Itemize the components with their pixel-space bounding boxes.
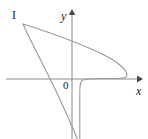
curve-loop-branch (23, 24, 127, 139)
y-axis-label: y (61, 10, 66, 22)
curve-label-I: I (12, 9, 16, 21)
curve-straight-branch (23, 24, 77, 139)
y-axis (69, 9, 76, 139)
curve-diagram: I y x 0 (0, 0, 148, 139)
y-axis-arrow-icon (69, 9, 76, 15)
curve-diagram-canvas (0, 0, 148, 139)
origin-label: 0 (63, 80, 69, 91)
x-axis (6, 76, 143, 83)
x-axis-label: x (136, 85, 141, 97)
x-axis-arrow-icon (137, 76, 143, 83)
